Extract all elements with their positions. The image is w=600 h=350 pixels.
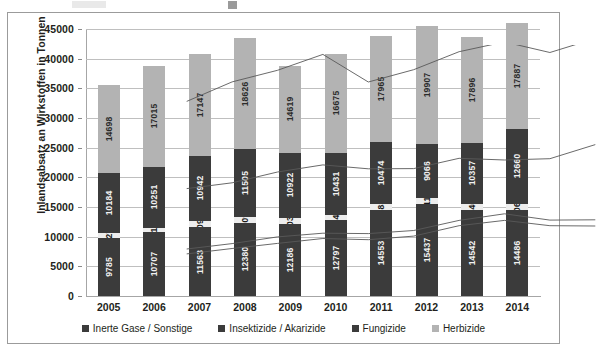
plot-area: 9785827101841469810707813102511701511563… <box>86 29 540 296</box>
y-tick-label: 10000 <box>44 231 74 243</box>
bar-segment[interactable]: 12380 <box>234 223 256 296</box>
bar-segment[interactable]: 14698 <box>98 85 120 172</box>
bar-value-label: 941 <box>331 215 341 221</box>
bar-value-label: 909 <box>240 217 250 222</box>
bar-group[interactable]: 97858271018414698 <box>98 29 120 296</box>
bar-segment[interactable]: 10942 <box>189 156 211 221</box>
y-tick-label: 30000 <box>44 112 74 124</box>
bar-segment[interactable]: 17015 <box>143 66 165 167</box>
bar-segment[interactable]: 17887 <box>506 23 528 129</box>
bar-group[interactable]: 145429401035717896 <box>461 29 483 296</box>
y-tick-mark <box>78 237 82 238</box>
legend-item[interactable]: Insektizide / Akarizide <box>218 323 325 334</box>
y-axis-tick-labels: 0500010000150002000025000300003500040000… <box>8 29 82 297</box>
bar-segment[interactable]: 14486 <box>506 210 528 296</box>
bar-group[interactable]: 123809091150518626 <box>234 29 256 296</box>
legend-item[interactable]: Herbizide <box>432 323 485 334</box>
chart-legend: Inerte Gase / SonstigeInsektizide / Akar… <box>8 323 559 334</box>
bar-segment[interactable]: 14542 <box>461 210 483 296</box>
bar-segment[interactable]: 10184 <box>98 173 120 233</box>
bar-segment[interactable]: 12797 <box>325 220 347 296</box>
legend-label: Herbizide <box>443 323 485 334</box>
bar-segment[interactable]: 14553 <box>370 210 392 296</box>
y-tick-mark <box>78 296 82 297</box>
artifact-fragment-marker <box>228 1 237 9</box>
x-tick-label: 2006 <box>142 301 165 313</box>
bar-group[interactable]: 145538831047417965 <box>370 29 392 296</box>
y-tick-label: 45000 <box>44 23 74 35</box>
bar-value-label: 14542 <box>467 241 477 266</box>
bar-segment[interactable]: 11505 <box>234 149 256 217</box>
y-tick-label: 0 <box>68 290 74 302</box>
bar-value-label: 14553 <box>376 241 386 266</box>
bar-group[interactable]: 107078131025117015 <box>143 29 165 296</box>
y-tick-mark <box>78 29 82 30</box>
bar-segment[interactable]: 10922 <box>279 153 301 218</box>
y-tick-mark <box>78 118 82 119</box>
bar-segment[interactable]: 12186 <box>279 224 301 296</box>
bar-segment[interactable]: 10251 <box>143 167 165 228</box>
bar-value-label: 17965 <box>376 77 386 102</box>
bar-group[interactable]: 1218610301092214619 <box>279 29 301 296</box>
bar-value-label: 14619 <box>285 97 295 122</box>
bar-value-label: 17887 <box>512 63 522 88</box>
x-tick-label: 2007 <box>188 301 211 313</box>
bar-segment[interactable]: 19907 <box>416 26 438 144</box>
bar-segment[interactable]: 17896 <box>461 37 483 143</box>
bar-segment[interactable]: 10357 <box>461 143 483 204</box>
bar-value-label: 10707 <box>149 252 159 277</box>
bar-segment[interactable]: 1030 <box>279 218 301 224</box>
bar-value-label: 15437 <box>422 238 432 263</box>
x-tick-label: 2012 <box>415 301 438 313</box>
bar-segment[interactable]: 11563 <box>189 227 211 296</box>
bar-value-label: 9066 <box>422 161 432 181</box>
bar-segment[interactable]: 941 <box>325 215 347 221</box>
y-tick-mark <box>78 207 82 208</box>
x-tick-label: 2009 <box>279 301 302 313</box>
bar-segment[interactable]: 10474 <box>370 142 392 204</box>
bar-segment[interactable]: 10707 <box>143 232 165 296</box>
bar-segment[interactable]: 1117 <box>416 198 438 205</box>
bar-value-label: 813 <box>149 228 159 233</box>
x-tick-label: 2010 <box>324 301 347 313</box>
bar-segment[interactable]: 12660 <box>506 129 528 204</box>
bar-segment[interactable]: 1092 <box>189 221 211 227</box>
legend-item[interactable]: Inerte Gase / Sonstige <box>82 323 193 334</box>
y-tick-label: 15000 <box>44 201 74 213</box>
bar-segment[interactable]: 10431 <box>325 153 347 215</box>
bar-segment[interactable]: 940 <box>461 204 483 210</box>
bar-group[interactable]: 127979411043116675 <box>325 29 347 296</box>
bar-segment[interactable]: 9066 <box>416 144 438 198</box>
bar-segment[interactable]: 14619 <box>279 66 301 153</box>
bar-segment[interactable]: 883 <box>370 204 392 209</box>
bar-value-label: 9785 <box>104 257 114 277</box>
bar-group[interactable]: 1448610611266017887 <box>506 29 528 296</box>
legend-item[interactable]: Fungizide <box>352 323 406 334</box>
x-tick-label: 2008 <box>233 301 256 313</box>
bar-segment[interactable]: 17147 <box>189 54 211 156</box>
bar-value-label: 10922 <box>285 173 295 198</box>
bar-value-label: 11505 <box>240 171 250 195</box>
bar-value-label: 10474 <box>376 161 386 186</box>
bar-group[interactable]: 1156310921094217147 <box>189 29 211 296</box>
bar-segment[interactable]: 16675 <box>325 54 347 153</box>
legend-swatch-icon <box>352 325 359 332</box>
artifact-fragment-left <box>72 1 106 8</box>
bar-segment[interactable]: 17965 <box>370 36 392 143</box>
bar-value-label: 10184 <box>104 191 114 216</box>
bar-group[interactable]: 154371117906619907 <box>416 29 438 296</box>
bar-value-label: 12186 <box>285 248 295 273</box>
y-tick-label: 20000 <box>44 171 74 183</box>
legend-swatch-icon <box>218 325 225 332</box>
bar-value-label: 1061 <box>512 204 522 210</box>
bar-value-label: 827 <box>104 233 114 238</box>
bar-segment[interactable]: 813 <box>143 228 165 233</box>
bar-segment[interactable]: 15437 <box>416 204 438 296</box>
bar-segment[interactable]: 909 <box>234 217 256 222</box>
bar-segment[interactable]: 827 <box>98 233 120 238</box>
bar-segment[interactable]: 18626 <box>234 38 256 149</box>
bar-segment[interactable]: 9785 <box>98 238 120 296</box>
cropped-top-artifact <box>0 0 569 12</box>
bar-value-label: 1117 <box>422 198 432 205</box>
bar-segment[interactable]: 1061 <box>506 204 528 210</box>
